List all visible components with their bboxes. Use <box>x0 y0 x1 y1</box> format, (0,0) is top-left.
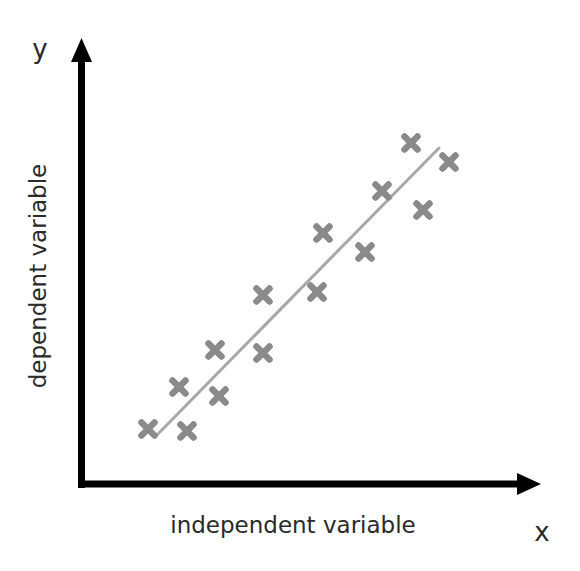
y-axis-arrowhead-icon <box>71 38 92 62</box>
scatter-diagram: y x independent variable dependent varia… <box>0 0 580 571</box>
x-marker-icon <box>181 425 194 438</box>
x-marker-icon <box>209 344 222 357</box>
y-axis-label: dependent variable <box>25 164 51 389</box>
y-axis-letter: y <box>32 34 47 64</box>
x-axis-label: independent variable <box>170 512 416 538</box>
x-marker-icon <box>317 227 330 240</box>
x-marker-icon <box>359 246 372 259</box>
x-marker-icon <box>443 156 456 169</box>
x-marker-icon <box>173 381 186 394</box>
x-marker-icon <box>405 137 418 150</box>
x-marker-icon <box>142 423 155 436</box>
x-marker-icon <box>376 185 389 198</box>
x-axis-arrowhead-icon <box>517 473 541 495</box>
x-axis-letter: x <box>534 517 549 547</box>
x-marker-icon <box>257 289 270 302</box>
data-points <box>142 137 456 438</box>
x-marker-icon <box>311 286 324 299</box>
x-marker-icon <box>213 390 226 403</box>
x-marker-icon <box>257 347 270 360</box>
x-marker-icon <box>417 204 430 217</box>
trend-line <box>155 148 439 437</box>
